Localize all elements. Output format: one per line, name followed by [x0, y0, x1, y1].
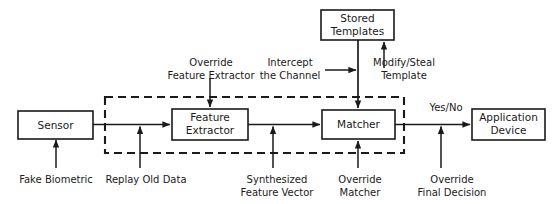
attack-label-override-feature-extractor: Override Feature Extractor — [167, 57, 255, 81]
node-stored-templates[interactable]: Stored Templates — [321, 10, 394, 40]
node-matcher[interactable]: Matcher — [322, 110, 395, 139]
node-application-device-label-line1: Application — [479, 111, 538, 123]
attack-label-override-matcher-line2: Matcher — [340, 187, 382, 198]
attack-label-intercept-the-channel: Intercept the Channel — [260, 57, 321, 81]
diagram-canvas: Sensor Feature Extractor Matcher Stored … — [0, 0, 559, 204]
attack-label-replay-old-data: Replay Old Data — [105, 174, 186, 185]
attack-label-synthesized-feature-vector: Synthesized Feature Vector — [241, 174, 315, 198]
edge-label-yes-no: Yes/No — [428, 102, 462, 113]
node-stored-templates-label-line1: Stored — [340, 12, 374, 24]
attack-label-intercept-the-channel-line1: Intercept — [267, 57, 312, 68]
attack-label-modify-steal-template-line1: Modify/Steal — [373, 57, 435, 68]
node-application-device[interactable]: Application Device — [472, 109, 545, 140]
attack-label-synthesized-feature-vector-line1: Synthesized — [247, 174, 308, 185]
attack-label-synthesized-feature-vector-line2: Feature Vector — [241, 187, 315, 198]
attack-label-override-final-decision: Override Final Decision — [418, 174, 487, 198]
attack-label-fake-biometric-line1: Fake Biometric — [19, 174, 93, 185]
node-sensor-label: Sensor — [38, 119, 75, 131]
attack-label-modify-steal-template-line2: Template — [380, 70, 427, 81]
attack-label-replay-old-data-line1: Replay Old Data — [105, 174, 186, 185]
attack-label-override-final-decision-line1: Override — [430, 174, 473, 185]
attack-label-override-feature-extractor-line2: Feature Extractor — [167, 70, 255, 81]
attack-label-modify-steal-template: Modify/Steal Template — [373, 57, 435, 81]
attack-label-override-feature-extractor-line1: Override — [189, 57, 232, 68]
node-feature-extractor-label-line2: Extractor — [186, 124, 235, 136]
attack-label-fake-biometric: Fake Biometric — [19, 174, 93, 185]
node-application-device-label-line2: Device — [491, 124, 527, 136]
attack-label-override-matcher: Override Matcher — [338, 174, 381, 198]
node-sensor[interactable]: Sensor — [18, 111, 93, 139]
node-stored-templates-label-line2: Templates — [330, 25, 384, 37]
attack-label-override-final-decision-line2: Final Decision — [418, 187, 487, 198]
node-matcher-label: Matcher — [337, 118, 380, 130]
node-feature-extractor-label-line1: Feature — [190, 111, 230, 123]
biometric-attack-diagram: Sensor Feature Extractor Matcher Stored … — [0, 0, 559, 204]
attack-label-override-matcher-line1: Override — [338, 174, 381, 185]
attack-label-intercept-the-channel-line2: the Channel — [260, 70, 321, 81]
node-feature-extractor[interactable]: Feature Extractor — [172, 109, 248, 140]
